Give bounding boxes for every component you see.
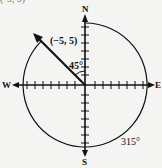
south-arrowhead-icon [82, 150, 88, 157]
west-label: W [2, 81, 11, 90]
angle-45-label: 45° [69, 61, 83, 71]
angle-arc-45 [75, 71, 85, 75]
north-label: N [82, 5, 89, 14]
south-label: S [82, 158, 87, 167]
vector-coordinate-label: (−5, 5) [50, 36, 77, 46]
north-arrowhead-icon [82, 14, 88, 22]
east-arrowhead-icon [148, 82, 155, 88]
west-arrowhead-icon [12, 82, 19, 88]
east-label: E [155, 81, 161, 90]
angle-315-label: 315° [121, 137, 140, 147]
